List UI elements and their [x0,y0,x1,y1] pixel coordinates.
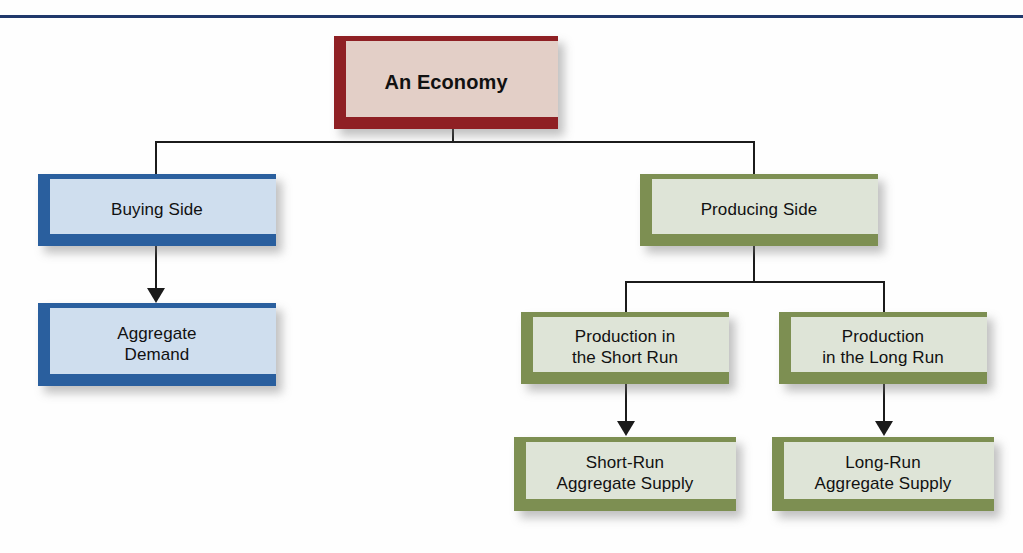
arrowhead-aggregate-demand [147,288,165,303]
header-rule [0,15,1023,18]
node-label-production-long-run: Production in the Long Run [816,327,950,368]
connector-level2-bus [625,281,885,283]
node-buying-side[interactable]: Buying Side [38,174,276,246]
node-long-run-aggregate-supply[interactable]: Long-Run Aggregate Supply [772,437,994,511]
node-production-short-run[interactable]: Production in the Short Run [521,312,729,384]
node-aggregate-demand[interactable]: Aggregate Demand [38,303,276,386]
node-label-buying-side: Buying Side [105,200,209,221]
connector-to-production-short-run [625,281,627,314]
node-producing-side[interactable]: Producing Side [640,174,878,246]
node-label-production-short-run: Production in the Short Run [566,327,684,368]
node-short-run-aggregate-supply[interactable]: Short-Run Aggregate Supply [514,437,736,511]
node-label-short-run-aggregate-supply: Short-Run Aggregate Supply [551,453,700,494]
connector-buying-to-demand [155,245,157,294]
node-production-long-run[interactable]: Production in the Long Run [779,312,987,384]
diagram-canvas: An Economy Buying Side Aggregate Demand … [0,0,1023,553]
arrowhead-long-run-aggregate-supply [875,421,893,436]
connector-level1-bus [155,141,755,143]
node-label-long-run-aggregate-supply: Long-Run Aggregate Supply [809,453,958,494]
node-an-economy[interactable]: An Economy [334,36,558,129]
node-label-aggregate-demand: Aggregate Demand [111,324,202,365]
connector-producing-stem [753,245,755,282]
node-label-an-economy: An Economy [378,70,513,94]
node-label-producing-side: Producing Side [695,200,824,221]
connector-to-production-long-run [883,281,885,314]
arrowhead-short-run-aggregate-supply [617,421,635,436]
connector-root-stem [452,128,454,142]
